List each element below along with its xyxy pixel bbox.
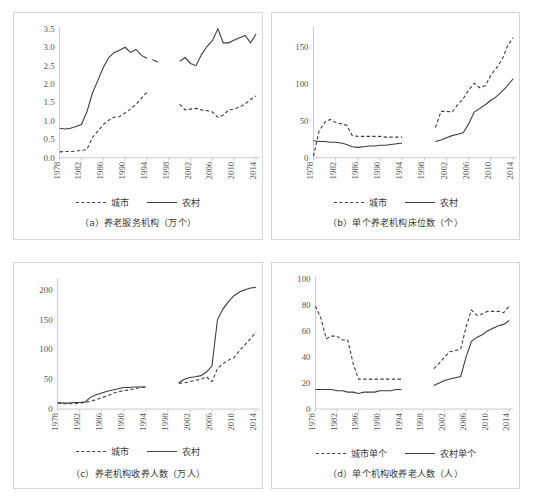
svg-text:50: 50	[44, 374, 53, 384]
figure-sheet: 0.00.51.01.52.02.53.03.51978198219861990…	[0, 0, 533, 503]
svg-text:1986: 1986	[95, 161, 105, 179]
dashed-line-icon	[334, 202, 364, 203]
svg-text:2014: 2014	[248, 161, 258, 179]
svg-text:1998: 1998	[416, 161, 426, 179]
svg-text:2002: 2002	[439, 162, 449, 180]
svg-text:1994: 1994	[394, 161, 404, 179]
legend-item-urban: 城市	[76, 445, 129, 458]
svg-text:40: 40	[302, 352, 311, 362]
svg-text:100: 100	[295, 79, 309, 89]
solid-line-icon	[147, 451, 177, 452]
svg-text:1986: 1986	[351, 412, 361, 430]
dashed-line-icon	[76, 202, 106, 203]
svg-text:1998: 1998	[160, 412, 170, 430]
svg-text:2010: 2010	[480, 412, 490, 430]
chart-c-caption: （c）养老机构收养人数（万人）	[14, 467, 262, 480]
svg-text:2006: 2006	[204, 412, 214, 430]
svg-text:1994: 1994	[138, 412, 148, 430]
svg-text:2010: 2010	[226, 161, 236, 179]
svg-text:1978: 1978	[307, 412, 317, 430]
svg-text:50: 50	[300, 116, 309, 126]
svg-text:1986: 1986	[94, 412, 104, 430]
svg-text:0.0: 0.0	[44, 153, 56, 163]
svg-text:2014: 2014	[501, 412, 511, 430]
chart-panel-a-frame: 0.00.51.01.52.02.53.03.51978198219861990…	[13, 12, 263, 240]
chart-d-legend: 城市单个 农村单个	[272, 447, 519, 460]
svg-text:0: 0	[304, 153, 309, 163]
chart-panel-c-frame: 0501001502001978198219861990199419982002…	[13, 262, 263, 489]
legend-label-rural: 农村	[440, 196, 458, 209]
legend-label-rural: 农村	[182, 445, 200, 458]
svg-text:1982: 1982	[73, 162, 83, 180]
svg-text:2002: 2002	[437, 413, 447, 431]
chart-b-legend: 城市 农村	[272, 196, 519, 209]
solid-line-icon	[147, 202, 177, 203]
legend-label-urban: 城市	[369, 196, 387, 209]
svg-text:0.5: 0.5	[44, 134, 56, 144]
svg-text:2006: 2006	[204, 161, 214, 179]
chart-panel-d: 0204060801001978198219861990199419982002…	[267, 252, 533, 503]
chart-b-caption: （b）单个养老机构床位数（个）	[272, 216, 519, 229]
svg-text:1990: 1990	[116, 412, 126, 430]
chart-panel-b: 0501001501978198219861990199419982002200…	[267, 0, 533, 252]
svg-text:1990: 1990	[372, 412, 382, 430]
svg-text:1982: 1982	[329, 413, 339, 431]
svg-text:80: 80	[302, 300, 311, 310]
svg-text:60: 60	[302, 326, 311, 336]
svg-text:0: 0	[306, 404, 311, 414]
chart-d-caption: （d）单个机构收养老人数（人）	[272, 467, 519, 480]
legend-item-urban: 城市单个	[316, 447, 387, 460]
legend-item-rural: 农村	[405, 196, 458, 209]
svg-text:1.0: 1.0	[44, 116, 56, 126]
legend-item-rural: 农村	[147, 445, 200, 458]
chart-panel-a: 0.00.51.01.52.02.53.03.51978198219861990…	[0, 0, 267, 252]
svg-text:200: 200	[39, 285, 53, 295]
svg-text:1978: 1978	[50, 412, 60, 430]
svg-text:1994: 1994	[139, 161, 149, 179]
chart-panel-b-frame: 0501001501978198219861990199419982002200…	[271, 12, 520, 240]
svg-text:2010: 2010	[483, 161, 493, 179]
legend-label-rural: 农村单个	[440, 447, 476, 460]
svg-text:1982: 1982	[328, 162, 338, 180]
dashed-line-icon	[316, 453, 346, 454]
solid-line-icon	[405, 202, 435, 203]
chart-panel-d-frame: 0204060801001978198219861990199419982002…	[271, 262, 520, 489]
svg-text:1998: 1998	[161, 161, 171, 179]
dashed-line-icon	[76, 451, 106, 452]
svg-text:1990: 1990	[372, 161, 382, 179]
svg-text:1978: 1978	[306, 161, 316, 179]
svg-text:2006: 2006	[458, 412, 468, 430]
legend-item-urban: 城市	[334, 196, 387, 209]
legend-item-rural: 农村单个	[405, 447, 476, 460]
legend-item-urban: 城市	[76, 196, 129, 209]
svg-text:1998: 1998	[415, 412, 425, 430]
legend-label-urban: 城市单个	[351, 447, 387, 460]
chart-c-legend: 城市 农村	[14, 445, 262, 458]
legend-label-urban: 城市	[111, 196, 129, 209]
legend-label-rural: 农村	[182, 196, 200, 209]
svg-text:0: 0	[48, 404, 53, 414]
chart-a-legend: 城市 农村	[14, 196, 262, 209]
svg-text:1.5: 1.5	[44, 97, 56, 107]
chart-panel-c: 0501001502001978198219861990199419982002…	[0, 252, 267, 503]
svg-text:150: 150	[295, 42, 309, 52]
svg-text:2002: 2002	[182, 413, 192, 431]
chart-a-caption: （a）养老服务机构（万个）	[14, 216, 262, 229]
svg-text:1994: 1994	[394, 412, 404, 430]
svg-text:2014: 2014	[248, 412, 258, 430]
svg-text:1986: 1986	[350, 161, 360, 179]
legend-label-urban: 城市	[111, 445, 129, 458]
svg-text:1982: 1982	[72, 413, 82, 431]
svg-text:100: 100	[39, 344, 53, 354]
svg-text:1990: 1990	[117, 161, 127, 179]
legend-item-rural: 农村	[147, 196, 200, 209]
svg-text:150: 150	[39, 315, 53, 325]
svg-text:2.5: 2.5	[44, 61, 56, 71]
svg-text:2006: 2006	[461, 161, 471, 179]
svg-text:3.5: 3.5	[44, 24, 56, 34]
svg-text:100: 100	[297, 274, 311, 284]
svg-text:1978: 1978	[52, 161, 62, 179]
solid-line-icon	[405, 453, 435, 454]
svg-text:20: 20	[302, 378, 311, 388]
svg-text:2.0: 2.0	[44, 79, 56, 89]
